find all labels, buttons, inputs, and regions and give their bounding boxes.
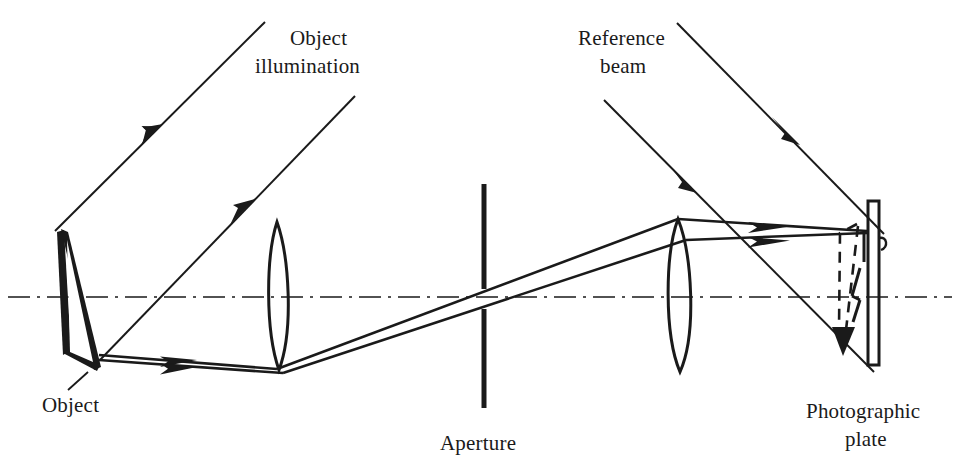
reference-beam-label-line2: beam xyxy=(600,54,646,78)
object-illumination-label-line1: Object xyxy=(290,26,347,50)
reconstructed-image xyxy=(832,224,864,356)
object-label: Object xyxy=(42,393,99,417)
reference-beam-label: Reference beam xyxy=(578,26,665,78)
object-scattered-rays xyxy=(99,355,283,375)
optical-diagram-canvas: Object illumination Object xyxy=(0,0,959,468)
aperture-label-group: Aperture xyxy=(440,431,516,455)
object-illumination-label-line2: illumination xyxy=(255,54,360,78)
photographic-plate-label: Photographic plate xyxy=(806,399,920,451)
photographic-plate xyxy=(868,201,879,365)
aperture-label: Aperture xyxy=(440,431,516,455)
photographic-plate-label-line2: plate xyxy=(845,427,887,451)
optical-diagram-svg: Object illumination Object xyxy=(0,0,959,468)
objective-lens xyxy=(269,222,289,370)
object-illumination-label: Object illumination xyxy=(255,26,360,78)
illumination-ray-1-arrowhead xyxy=(141,124,164,147)
object-shape xyxy=(57,229,101,371)
object-label-group: Object xyxy=(42,372,99,417)
reference-beam-label-line1: Reference xyxy=(578,26,665,50)
photographic-plate-label-line1: Photographic xyxy=(806,399,920,423)
